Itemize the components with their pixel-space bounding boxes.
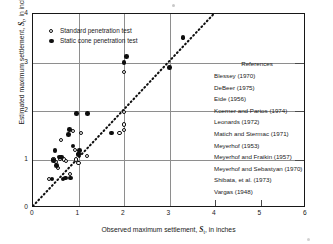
data-point-static-cone [54,163,59,168]
data-point-static-cone [76,152,81,157]
data-point-static-cone [77,148,82,153]
data-point-standard-penetration [117,131,121,135]
xtick-0: 0 [24,209,40,216]
x-axis-title-suffix: , in inches [205,226,236,233]
scatter-points-layer [33,14,304,206]
data-point-static-cone [59,155,64,160]
y-axis-title-suffix: , in inches [18,0,25,20]
data-point-static-cone [67,127,72,132]
data-point-standard-penetration [64,159,68,163]
data-point-static-cone [50,177,55,182]
xtick-3: 3 [161,209,177,216]
data-point-static-cone [85,111,90,116]
data-point-standard-penetration [122,122,126,126]
data-point-standard-penetration [59,138,63,142]
data-point-standard-penetration [122,128,126,132]
x-axis-title-prefix: Observed maximum settlement, [101,226,199,233]
plot-area: Standard penetration test Static cone pe… [32,13,305,207]
data-point-standard-penetration [85,154,89,158]
data-point-static-cone [167,65,172,70]
xtick-6: 6 [297,209,313,216]
y-axis-title: Estimated maximum settlement, St, in inc… [17,0,27,137]
data-point-standard-penetration [76,161,80,165]
x-axis-title: Observed maximum settlement, St, in inch… [32,225,305,235]
xtick-2: 2 [115,209,131,216]
data-point-standard-penetration [122,70,126,74]
ytick-0: 0 [14,203,28,210]
data-point-static-cone [53,148,58,153]
data-point-static-cone [74,111,79,116]
data-point-static-cone [109,131,114,136]
data-point-static-cone [124,54,129,59]
scan-artifact [172,4,175,7]
data-point-static-cone [181,35,186,40]
xtick-4: 4 [206,209,222,216]
data-point-standard-penetration [79,131,83,135]
ytick-1: 1 [14,155,28,162]
data-point-static-cone [66,132,71,137]
settlement-scatter-figure: Standard penetration test Static cone pe… [0,0,333,244]
data-point-static-cone [68,176,73,181]
data-point-standard-penetration [122,110,126,114]
y-axis-symbol: S [17,22,26,26]
scan-artifact [307,238,310,241]
data-point-static-cone [122,60,127,65]
y-axis-subscript: t [21,20,27,21]
xtick-5: 5 [252,209,268,216]
y-axis-title-prefix: Estimated maximum settlement, [18,26,25,125]
xtick-1: 1 [70,209,86,216]
